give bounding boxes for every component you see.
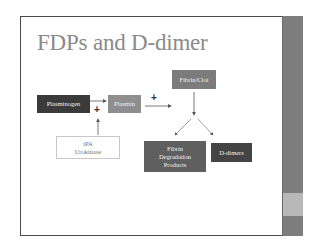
node-tpa-urokinase: tPA Urokinase — [56, 136, 120, 159]
node-plasmin-label: Plasmin — [114, 100, 135, 108]
arrow-to-ddimers — [198, 119, 213, 135]
node-fdp-line1: Fibrin — [167, 145, 183, 153]
node-fdp-line2: Degradation — [159, 153, 191, 161]
plus-icon-activator: + — [94, 105, 100, 115]
node-fibrin-degradation-products: Fibrin Degradation Products — [144, 141, 206, 172]
node-fdp-line3: Products — [164, 161, 187, 169]
plus-icon-plasmin: + — [151, 93, 157, 103]
node-plasminogen-label: Plasminogen — [47, 100, 81, 108]
node-plasminogen: Plasminogen — [37, 95, 90, 113]
node-tpa-label: tPA — [83, 140, 93, 148]
arrow-to-fdp — [175, 119, 191, 135]
node-d-dimers-label: D-dimers — [219, 149, 244, 157]
node-urokinase-label: Urokinase — [75, 148, 102, 156]
diagram-arrows — [0, 0, 320, 243]
node-d-dimers: D-dimers — [211, 143, 252, 162]
node-plasmin: Plasmin — [108, 95, 141, 113]
node-fibrin-clot: Fibrin/Clot — [172, 70, 216, 89]
node-fibrin-clot-label: Fibrin/Clot — [180, 76, 209, 84]
